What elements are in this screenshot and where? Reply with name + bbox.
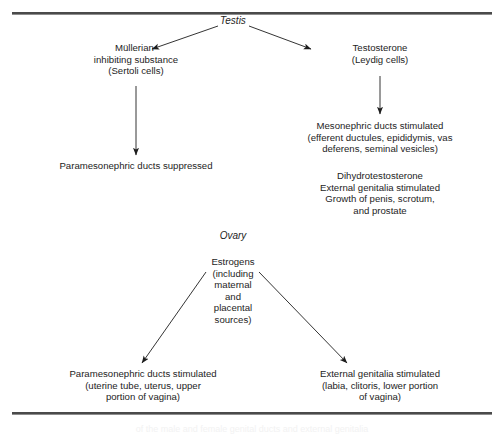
node-paramesonephric-ducts-suppressed: Paramesonephric ducts suppressed (36, 160, 236, 172)
arrow-testis-to-testosterone (249, 26, 311, 49)
node-dihydrotestosterone-effects: Dihydrotestosterone External genitalia s… (272, 170, 488, 216)
gonad-hormone-flow-diagram: Testis Müllerian- inhibiting substance (… (0, 0, 504, 434)
node-paramesonephric-ducts-stimulated: Paramesonephric ducts stimulated (uterin… (32, 368, 254, 403)
node-mullerian-inhibiting-substance: Müllerian- inhibiting substance (Sertoli… (58, 42, 214, 77)
figure-caption-clipped: of the male and female genital ducts and… (0, 424, 504, 434)
node-testosterone-leydig-cells: Testosterone (Leydig cells) (318, 42, 442, 65)
node-external-genitalia-stimulated: External genitalia stimulated (labia, cl… (272, 368, 488, 403)
arrow-estrogens-to-external-genitalia (259, 272, 347, 363)
node-estrogens: Estrogens (including maternal and placen… (200, 256, 266, 326)
node-testis: Testis (196, 15, 270, 27)
node-ovary: Ovary (196, 230, 270, 242)
node-mesonephric-ducts-stimulated: Mesonephric ducts stimulated (efferent d… (272, 120, 488, 155)
top-horizontal-rule (12, 12, 492, 14)
bottom-horizontal-rule (12, 412, 492, 414)
arrow-estrogens-to-paramesonephric-stimulated (142, 272, 206, 363)
